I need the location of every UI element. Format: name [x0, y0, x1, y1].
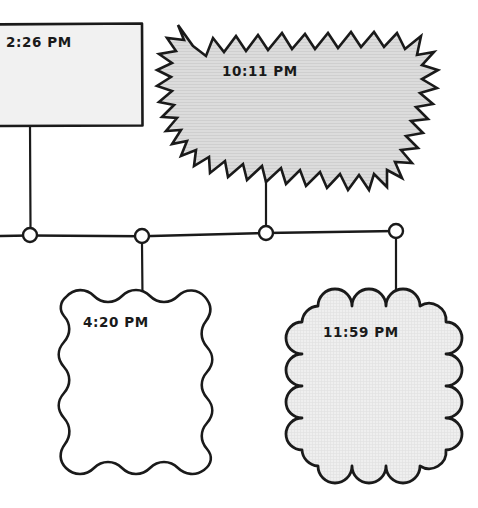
node-cloud-label: 11:59 PM	[323, 324, 399, 340]
junction-node-2[interactable]	[135, 229, 149, 243]
node-starburst[interactable]: 10:11 PM	[157, 25, 438, 190]
diagram-canvas: 2:26 PM 10:11 PM 4:20 PM 11:59 PM	[0, 0, 478, 508]
node-cloud[interactable]: 11:59 PM	[286, 289, 462, 483]
node-starburst-outline	[157, 25, 438, 190]
junction-node-1[interactable]	[23, 228, 37, 242]
node-cloud-outline	[286, 289, 462, 483]
node-rectangle-label: 2:26 PM	[6, 34, 72, 50]
node-rectangle[interactable]: 2:26 PM	[0, 24, 143, 127]
node-starburst-label: 10:11 PM	[222, 63, 298, 79]
connector-rectangle-to-bus	[30, 125, 31, 228]
junction-node-3[interactable]	[259, 226, 273, 240]
connector-horizontal-bus	[0, 231, 396, 236]
node-wavy[interactable]: 4:20 PM	[59, 290, 213, 474]
connector-bus-to-wavy	[142, 243, 143, 297]
node-wavy-label: 4:20 PM	[83, 314, 149, 330]
junction-node-4[interactable]	[389, 224, 403, 238]
timeline-node-diagram: 2:26 PM 10:11 PM 4:20 PM 11:59 PM	[0, 0, 478, 508]
